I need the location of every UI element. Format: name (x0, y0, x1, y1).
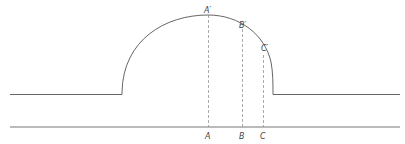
label-a: A (204, 132, 210, 141)
label-b-prime: B′ (239, 21, 246, 30)
upper-profile-line (10, 15, 400, 95)
diagram-canvas: A′ B′ C′ A B C (0, 0, 405, 144)
label-a-prime: A′ (203, 6, 211, 15)
label-b: B (239, 132, 245, 141)
label-c-prime: C′ (261, 44, 269, 53)
label-c: C (260, 132, 266, 141)
